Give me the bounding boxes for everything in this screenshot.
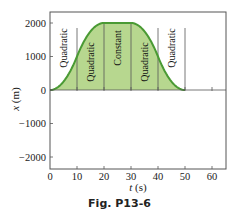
figure-caption: Fig. P13-6 <box>0 197 239 210</box>
x-axis-ticks: 0102030405060 <box>47 166 217 182</box>
x-axis-title: t (s) <box>129 181 147 194</box>
y-tick-label: 2000 <box>25 18 46 29</box>
segment-label: Quadratic <box>58 28 69 68</box>
x-tick-label: 50 <box>180 171 191 182</box>
x-tick-label: 60 <box>207 171 218 182</box>
y-axis-ticks: 200010000−1000−2000 <box>19 18 53 163</box>
segment-label: Quadratic <box>85 42 96 82</box>
y-tick-label: 0 <box>41 85 46 96</box>
x-tick-label: 20 <box>99 171 110 182</box>
x-tick-label: 40 <box>153 171 164 182</box>
y-tick-label: −1000 <box>19 118 46 129</box>
y-tick-label: −2000 <box>19 152 46 163</box>
x-tick-label: 10 <box>72 171 83 182</box>
segment-label: Quadratic <box>166 28 177 68</box>
chart: QuadraticQuadraticConstantQuadraticQuadr… <box>0 0 239 195</box>
x-tick-label: 0 <box>47 171 52 182</box>
y-axis-title: x (m) <box>9 87 22 112</box>
segment-label: Quadratic <box>139 42 150 82</box>
y-tick-label: 1000 <box>25 51 46 62</box>
segment-label: Constant <box>112 30 123 66</box>
